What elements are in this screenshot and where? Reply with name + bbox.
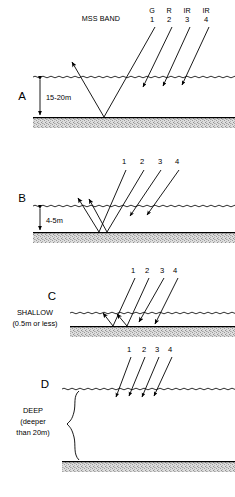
panel-b-seabed [33, 233, 235, 243]
panel-d-ray-number-2: 2 [142, 345, 146, 354]
panel-d-ray-number-3: 3 [155, 345, 159, 354]
panel-d-letter: D [41, 378, 49, 390]
panel-b-letter: B [18, 192, 26, 204]
water-penetration-diagram: MSS BAND G R IR IR 1 2 3 4 A 15-20m 1 2 … [0, 0, 235, 497]
band-name-4: IR [202, 6, 209, 15]
panel-a-letter: A [18, 90, 26, 102]
band-name-1: G [149, 6, 155, 15]
panel-c-caption-line-2: (0.5m or less) [12, 319, 57, 328]
panel-a-ray-number-2: 2 [167, 15, 171, 24]
panel-a-ray-number-3: 3 [185, 15, 189, 24]
panel-b-ray-number-1: 1 [122, 157, 126, 166]
panel-c-ray-number-4: 4 [173, 266, 177, 275]
panel-c-letter: C [48, 290, 56, 302]
panel-d-caption-line-2: (deeper [20, 417, 46, 426]
panel-b-depth-label: 4-5m [46, 216, 63, 225]
panel-d-caption-line-3: than 20m) [16, 428, 49, 437]
panel-c-ray-number-3: 3 [160, 266, 164, 275]
panel-a-seabed [33, 118, 235, 128]
band-name-3: IR [183, 6, 190, 15]
panel-c-ray-number-2: 2 [145, 266, 149, 275]
panel-b-ray-number-3: 3 [158, 157, 162, 166]
panel-c-caption-line-1: SHALLOW [17, 308, 53, 317]
panel-c-ray-number-1: 1 [131, 266, 135, 275]
band-name-2: R [166, 6, 171, 15]
mss-band-header-label: MSS BAND [82, 14, 120, 23]
panel-c-seabed [70, 327, 235, 337]
panel-d-ray-number-1: 1 [127, 345, 131, 354]
panel-d-caption-line-1: DEEP [23, 406, 43, 415]
panel-a-ray-number-4: 4 [204, 15, 208, 24]
panel-a-ray-number-1: 1 [150, 15, 154, 24]
panel-a-depth-label: 15-20m [46, 93, 71, 102]
panel-b-ray-number-4: 4 [175, 157, 179, 166]
panel-d-ray-number-4: 4 [168, 345, 172, 354]
panel-b-ray-number-2: 2 [140, 157, 144, 166]
panel-d-seabed [62, 462, 235, 472]
